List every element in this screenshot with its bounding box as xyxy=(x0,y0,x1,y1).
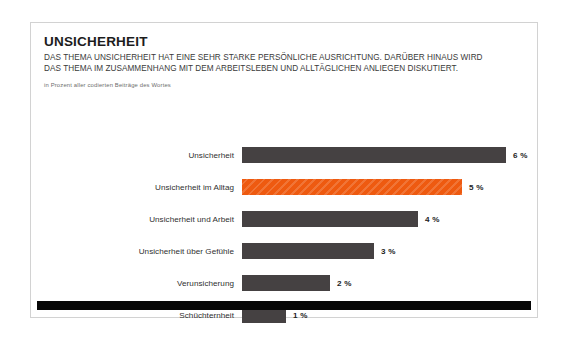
card-header: UNSICHERHEIT DAS THEMA UNSICHERHEIT HAT … xyxy=(44,35,525,88)
bar-category-label: Schüchternheit xyxy=(31,311,242,320)
bar-value-label: 5 % xyxy=(469,183,484,192)
bar-category-label: Unsicherheit über Gefühle xyxy=(31,247,242,256)
table-row: Verunsicherung 2 % xyxy=(31,267,537,299)
bar-segment-highlighted xyxy=(242,179,462,195)
bar-segment xyxy=(242,275,330,291)
bar-category-label: Verunsicherung xyxy=(31,279,242,288)
bar-segment xyxy=(242,243,374,259)
card-subheading-line-1: DAS THEMA UNSICHERHEIT HAT EINE SEHR STA… xyxy=(44,52,525,64)
card-subheading-line-2: DAS THEMA IM ZUSAMMENHANG MIT DEM ARBEIT… xyxy=(44,63,525,75)
table-row: Unsicherheit über Gefühle 3 % xyxy=(31,235,537,267)
table-row: Unsicherheit 6 % xyxy=(31,139,537,171)
bar-segment xyxy=(242,147,506,163)
page-title: UNSICHERHEIT xyxy=(44,35,525,50)
bar-track: 4 % xyxy=(242,211,537,227)
bar-category-label: Unsicherheit im Alltag xyxy=(31,183,242,192)
bar-category-label: Unsicherheit und Arbeit xyxy=(31,215,242,224)
bar-track: 2 % xyxy=(242,275,537,291)
bar-track: 6 % xyxy=(242,147,537,163)
footer-accent-bar xyxy=(37,301,531,310)
bar-track: 3 % xyxy=(242,243,537,259)
bar-track: 5 % xyxy=(242,179,537,195)
card-subheading: DAS THEMA UNSICHERHEIT HAT EINE SEHR STA… xyxy=(44,52,525,75)
table-row: Unsicherheit im Alltag 5 % xyxy=(31,171,537,203)
chart-unit-note: in Prozent aller codierten Beiträge des … xyxy=(44,82,525,88)
bar-segment xyxy=(242,211,418,227)
bar-category-label: Unsicherheit xyxy=(31,151,242,160)
bar-value-label: 3 % xyxy=(381,247,396,256)
bar-value-label: 2 % xyxy=(337,279,352,288)
bar-value-label: 4 % xyxy=(425,215,440,224)
infographic-card: UNSICHERHEIT DAS THEMA UNSICHERHEIT HAT … xyxy=(30,22,538,318)
bar-value-label: 6 % xyxy=(513,151,528,160)
bar-value-label: 1 % xyxy=(293,311,308,320)
page-root: UNSICHERHEIT DAS THEMA UNSICHERHEIT HAT … xyxy=(0,0,567,341)
table-row: Unsicherheit und Arbeit 4 % xyxy=(31,203,537,235)
